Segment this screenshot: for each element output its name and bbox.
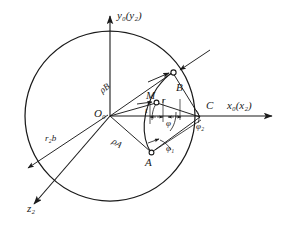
z-axis-label: z₂ bbox=[27, 203, 35, 214]
point-marker-b bbox=[171, 70, 176, 75]
origin-label: O₀ bbox=[94, 108, 106, 119]
length-label-r: r bbox=[162, 96, 166, 105]
segment-o-m bbox=[110, 103, 156, 116]
angle-label-phi2: φ₂ bbox=[196, 122, 204, 131]
radius-r2b-line bbox=[28, 115, 108, 168]
point-label-b: B bbox=[176, 82, 183, 93]
diagram-canvas: y₀(y₂) x₀(x₂) z₂ O₀ r₂b ρB ρA B M r t A … bbox=[0, 0, 282, 234]
x-axis-label: x₀(x₂) bbox=[227, 100, 252, 111]
segment-c-a-secondary bbox=[155, 120, 201, 150]
y-axis-label: y₀(y₂) bbox=[117, 10, 142, 21]
point-marker-a bbox=[149, 150, 154, 155]
callout-arrow-b bbox=[180, 50, 210, 70]
angle-label-phi1: φ₁ bbox=[166, 144, 174, 153]
point-label-a: A bbox=[145, 157, 152, 168]
callout-arrow-phi1 bbox=[148, 139, 159, 143]
radius-label-r2b: r₂b bbox=[45, 134, 56, 143]
angle-label-t: t bbox=[145, 106, 148, 115]
segment-c-m bbox=[157, 103, 200, 117]
point-label-m: M bbox=[146, 90, 155, 101]
geometry-drawing bbox=[0, 0, 282, 234]
z-axis bbox=[34, 116, 110, 204]
angle-arc-t bbox=[152, 103, 157, 120]
angle-label-phi: φ bbox=[166, 119, 171, 128]
point-label-c: C bbox=[206, 100, 213, 111]
